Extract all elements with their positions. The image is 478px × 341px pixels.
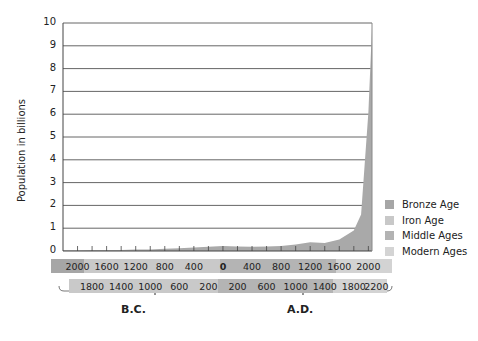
swatch-icon xyxy=(385,247,394,256)
era-bc-label: B.C. xyxy=(121,303,146,316)
swatch-icon xyxy=(385,200,394,209)
population-area xyxy=(63,28,372,251)
era-ad-label: A.D. xyxy=(287,303,313,316)
swatch-icon xyxy=(385,216,394,225)
legend-item-middle: Middle Ages xyxy=(385,228,467,244)
legend: Bronze Age Iron Age Middle Ages Modern A… xyxy=(385,197,467,259)
swatch-icon xyxy=(385,231,394,240)
legend-item-modern: Modern Ages xyxy=(385,244,467,260)
gridlines xyxy=(63,23,372,228)
legend-item-bronze: Bronze Age xyxy=(385,197,467,213)
legend-item-iron: Iron Age xyxy=(385,213,467,229)
x-axis-ticks xyxy=(78,246,369,251)
